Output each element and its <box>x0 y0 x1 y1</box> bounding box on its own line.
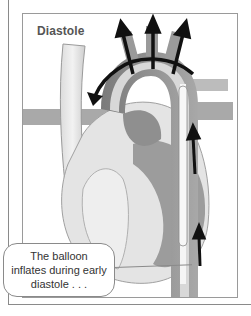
callout-line-3: diastole . . . <box>4 277 114 291</box>
callout-line-1: The balloon <box>4 249 114 263</box>
callout-line-2: inflates during early <box>4 263 114 277</box>
outer-frame-bottom-rule <box>8 304 251 305</box>
callout-bubble: The balloon inflates during early diasto… <box>3 243 115 297</box>
intra-aortic-balloon <box>179 86 187 246</box>
retrograde-flow-arrowhead <box>87 92 103 106</box>
callout-text: The balloon inflates during early diasto… <box>4 249 114 291</box>
phase-label: Diastole <box>37 24 84 38</box>
